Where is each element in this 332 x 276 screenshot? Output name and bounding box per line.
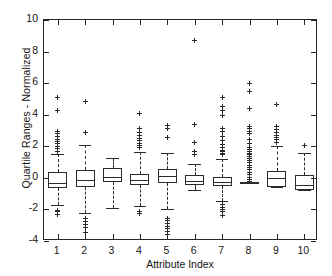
outlier-marker	[247, 141, 252, 146]
median-line	[158, 176, 177, 177]
x-tick-label: 2	[71, 244, 97, 256]
outlier-marker	[302, 143, 307, 148]
outlier-marker	[137, 130, 142, 135]
median-line	[295, 185, 314, 186]
box	[76, 170, 95, 187]
outlier-marker	[165, 126, 170, 131]
outlier-marker	[274, 135, 279, 140]
box	[48, 172, 67, 188]
outlier-marker	[55, 139, 60, 144]
outlier-marker	[137, 145, 142, 150]
whisker-cap-upper	[271, 146, 284, 147]
x-tick-mark	[277, 234, 278, 239]
x-tick-label: 9	[263, 244, 289, 256]
box	[103, 168, 122, 181]
outlier-marker	[220, 126, 225, 131]
outlier-marker	[192, 149, 197, 154]
outlier-marker	[247, 124, 252, 129]
x-tick-label: 5	[153, 244, 179, 256]
whisker-cap-lower	[161, 209, 174, 210]
x-tick-mark	[222, 234, 223, 239]
median-line	[213, 182, 232, 183]
x-tick-mark	[140, 234, 141, 239]
x-tick-mark	[304, 20, 305, 25]
outlier-marker	[83, 99, 88, 104]
x-tick-label: 8	[236, 244, 262, 256]
outlier-marker	[55, 95, 60, 100]
outlier-marker	[247, 81, 252, 86]
outlier-marker	[220, 149, 225, 154]
outlier-marker	[247, 158, 252, 163]
outlier-marker	[274, 102, 279, 107]
outlier-marker	[220, 205, 225, 210]
x-tick-mark	[85, 234, 86, 239]
y-tick-label: 10	[0, 12, 38, 24]
y-tick-label: 4	[0, 107, 38, 119]
y-tick-mark	[311, 209, 316, 210]
x-tick-mark	[195, 234, 196, 239]
outlier-marker	[220, 104, 225, 109]
outlier-marker	[55, 212, 60, 217]
outlier-marker	[83, 130, 88, 135]
whisker-upper	[58, 154, 59, 172]
outlier-marker	[83, 222, 88, 227]
x-tick-mark	[195, 20, 196, 25]
outlier-marker	[192, 140, 197, 145]
outlier-marker	[165, 226, 170, 231]
outlier-marker	[247, 177, 252, 182]
median-line	[76, 180, 95, 181]
outlier-marker	[247, 106, 252, 111]
outlier-marker	[247, 145, 252, 150]
outlier-marker	[165, 216, 170, 221]
x-tick-mark	[113, 20, 114, 25]
outlier-marker	[247, 137, 252, 142]
x-tick-label: 4	[126, 244, 152, 256]
x-tick-mark	[58, 234, 59, 239]
median-line	[48, 183, 67, 184]
outlier-marker	[192, 152, 197, 157]
x-tick-mark	[167, 20, 168, 25]
outlier-marker	[247, 147, 252, 152]
median-line	[103, 177, 122, 178]
outlier-marker	[137, 136, 142, 141]
outlier-marker	[274, 124, 279, 129]
outlier-marker	[55, 108, 60, 113]
outlier-marker	[137, 126, 142, 131]
x-tick-mark	[222, 20, 223, 25]
x-tick-mark	[167, 234, 168, 239]
whisker-lower	[140, 185, 141, 206]
outlier-marker	[220, 138, 225, 143]
median-line	[240, 183, 259, 184]
y-tick-label: 6	[0, 75, 38, 87]
whisker-cap-upper	[134, 152, 147, 153]
outlier-marker	[247, 163, 252, 168]
outlier-marker	[247, 165, 252, 170]
y-tick-label: -4	[0, 233, 38, 245]
plot-area	[43, 19, 317, 240]
y-tick-mark	[311, 20, 316, 21]
outlier-marker	[165, 218, 170, 223]
outlier-marker	[220, 113, 225, 118]
whisker-cap-upper	[216, 159, 229, 160]
median-line	[267, 178, 286, 179]
outlier-marker	[220, 108, 225, 113]
x-tick-label: 3	[99, 244, 125, 256]
box	[185, 175, 204, 185]
whisker-cap-upper	[79, 145, 92, 146]
outlier-marker	[83, 225, 88, 230]
y-tick-mark	[44, 241, 49, 242]
x-tick-mark	[250, 234, 251, 239]
outlier-marker	[247, 160, 252, 165]
whisker-cap-upper	[298, 153, 311, 154]
y-tick-label: 0	[0, 170, 38, 182]
outlier-marker	[274, 133, 279, 138]
outlier-marker	[247, 126, 252, 131]
outlier-marker	[247, 175, 252, 180]
x-tick-mark	[140, 20, 141, 25]
outlier-marker	[220, 134, 225, 139]
whisker-cap-upper	[106, 158, 119, 159]
x-axis-label: Attribute Index	[43, 258, 317, 270]
x-tick-mark	[85, 20, 86, 25]
whisker-cap-lower	[106, 208, 119, 209]
whisker-cap-lower	[271, 187, 284, 188]
